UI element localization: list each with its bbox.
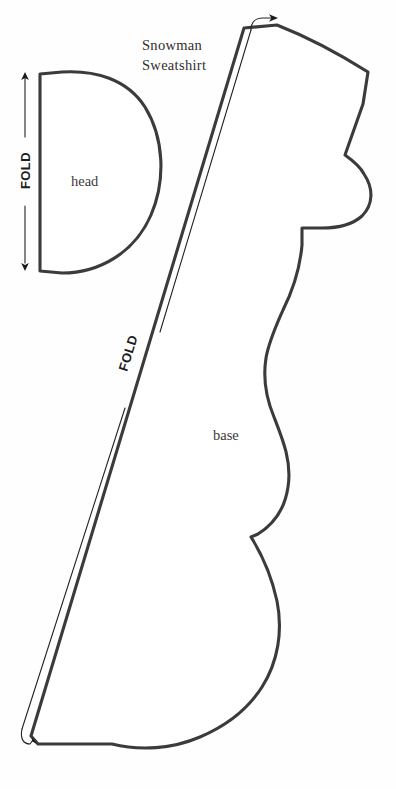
head-piece-outline: [40, 72, 161, 273]
base-fold-label: FOLD: [116, 333, 141, 373]
pattern-sheet: Snowman Sweatshirt head FOLD base FOLD: [0, 0, 396, 789]
arrow-down-icon: [21, 263, 29, 271]
base-piece-label: base: [213, 427, 239, 443]
head-piece-label: head: [71, 173, 99, 189]
page-title-line-1: Snowman: [142, 37, 203, 53]
page-title-line-2: Sweatshirt: [142, 57, 206, 73]
head-fold-label: FOLD: [18, 152, 33, 189]
